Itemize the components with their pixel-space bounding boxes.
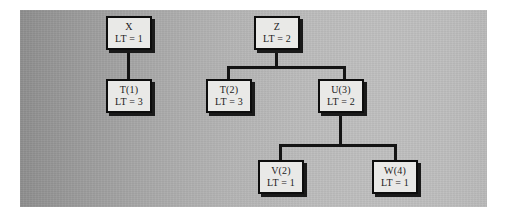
tree-node-z-name: Z <box>274 22 280 33</box>
tree-node-u3-label: LT = 2 <box>327 97 355 108</box>
tree-node-w4-label: LT = 1 <box>381 178 409 189</box>
tree-node-t1-label: LT = 3 <box>115 97 143 108</box>
tree-node-t2[interactable]: T(2) LT = 3 <box>206 79 252 113</box>
tree-node-t1[interactable]: T(1) LT = 3 <box>106 79 152 113</box>
tree-node-u3-name: U(3) <box>331 85 351 96</box>
tree-node-z-label: LT = 2 <box>263 34 291 45</box>
tree-node-t2-label: LT = 3 <box>215 97 243 108</box>
edge-x-to-t1 <box>127 50 130 79</box>
tree-node-x-label: LT = 1 <box>115 34 143 45</box>
tree-node-v2[interactable]: V(2) LT = 1 <box>258 160 304 194</box>
tree-node-x-name: X <box>125 22 132 33</box>
tree-node-v2-label: LT = 1 <box>267 178 295 189</box>
diagram-canvas: X LT = 1 T(1) LT = 3 Z LT = 2 T(2) LT = … <box>0 0 510 222</box>
diagram-panel: X LT = 1 T(1) LT = 3 Z LT = 2 T(2) LT = … <box>20 10 487 207</box>
tree-node-u3[interactable]: U(3) LT = 2 <box>318 79 364 113</box>
edge-z-to-t2 <box>227 66 230 79</box>
tree-node-t1-name: T(1) <box>120 85 139 96</box>
tree-node-z[interactable]: Z LT = 2 <box>254 16 300 50</box>
edge-u3-bus <box>279 144 397 147</box>
edge-u3-stem <box>339 113 342 146</box>
tree-node-t2-name: T(2) <box>220 85 239 96</box>
tree-node-x[interactable]: X LT = 1 <box>106 16 152 50</box>
edge-z-bus <box>227 66 346 69</box>
edge-z-to-u3 <box>343 66 346 79</box>
edge-u3-to-w4 <box>394 144 397 161</box>
tree-node-v2-name: V(2) <box>271 166 291 177</box>
edge-u3-to-v2 <box>279 144 282 161</box>
tree-node-w4-name: W(4) <box>384 166 406 177</box>
tree-node-w4[interactable]: W(4) LT = 1 <box>372 160 418 194</box>
